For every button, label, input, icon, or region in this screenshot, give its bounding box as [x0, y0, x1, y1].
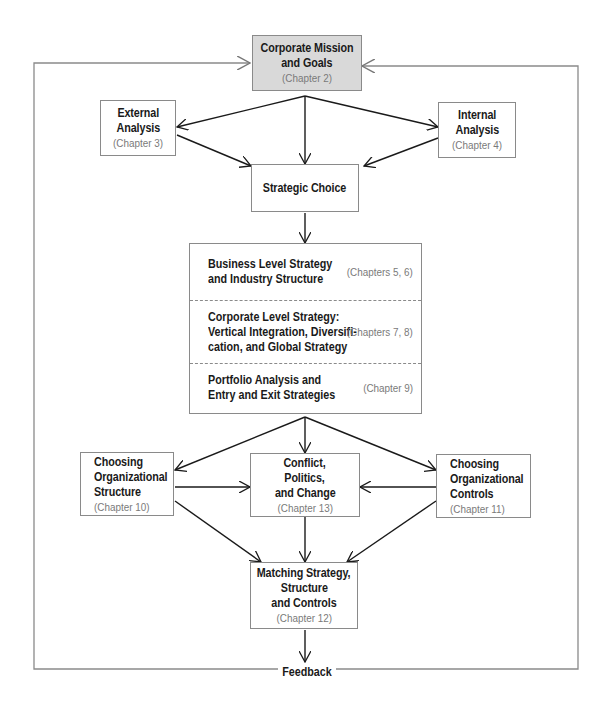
box-strategy-options: Business Level Strategy and Industry Str… — [189, 243, 422, 414]
conflict-chapter: (Chapter 13) — [277, 501, 333, 515]
controls-title-1: Choosing — [450, 457, 499, 472]
strategy-row-corporate: Corporate Level Strategy: Vertical Integ… — [190, 301, 421, 363]
strategy-row-business: Business Level Strategy and Industry Str… — [190, 244, 421, 300]
portfolio-strategy-title: Portfolio Analysis and Entry and Exit St… — [208, 373, 335, 403]
structure-title-1: Choosing — [94, 455, 143, 470]
controls-chapter: (Chapter 11) — [450, 502, 505, 516]
matching-title-1: Matching Strategy, — [257, 566, 351, 581]
controls-title-2: Organizational — [450, 472, 523, 487]
conflict-title-2: Politics, — [285, 471, 325, 486]
portfolio-chapter: (Chapter 9) — [363, 382, 413, 394]
box-organizational-controls: Choosing Organizational Controls (Chapte… — [436, 454, 531, 518]
box-organizational-structure: Choosing Organizational Structure (Chapt… — [80, 452, 174, 516]
feedback-label: Feedback — [282, 665, 332, 679]
corporate-chapter: (Chapters 7, 8) — [347, 326, 413, 338]
internal-chapter: (Chapter 4) — [452, 138, 502, 152]
external-title-2: Analysis — [116, 121, 160, 136]
external-chapter: (Chapter 3) — [113, 136, 163, 150]
corporate-title-2: Vertical Integration, Diversifi- — [208, 325, 357, 340]
business-strategy-title: Business Level Strategy and Industry Str… — [208, 257, 332, 287]
mission-chapter: (Chapter 2) — [282, 71, 332, 85]
structure-chapter: (Chapter 10) — [94, 500, 150, 514]
box-strategic-choice: Strategic Choice — [251, 164, 359, 212]
strategy-row-portfolio: Portfolio Analysis and Entry and Exit St… — [190, 364, 421, 412]
box-matching-strategy: Matching Strategy, Structure and Control… — [250, 562, 358, 629]
business-chapter: (Chapters 5, 6) — [347, 266, 413, 278]
business-title-1: Business Level Strategy — [208, 257, 332, 272]
internal-title-2: Analysis — [455, 123, 499, 138]
box-corporate-mission: Corporate Mission and Goals (Chapter 2) — [252, 35, 362, 91]
box-external-analysis: External Analysis (Chapter 3) — [100, 100, 176, 156]
matching-title-2: Structure — [280, 581, 327, 596]
corporate-title-1: Corporate Level Strategy: — [208, 310, 357, 325]
matching-title-3: and Controls — [271, 596, 336, 611]
box-conflict-politics-change: Conflict, Politics, and Change (Chapter … — [250, 453, 360, 517]
box-internal-analysis: Internal Analysis (Chapter 4) — [438, 102, 516, 158]
matching-chapter: (Chapter 12) — [276, 611, 332, 625]
mission-title-2: and Goals — [281, 56, 332, 71]
corporate-title-3: cation, and Global Strategy — [208, 340, 357, 355]
controls-title-3: Controls — [450, 487, 494, 502]
conflict-title-3: and Change — [275, 486, 336, 501]
conflict-title-1: Conflict, — [284, 456, 326, 471]
portfolio-title-1: Portfolio Analysis and — [208, 373, 335, 388]
external-title-1: External — [117, 106, 159, 121]
business-title-2: and Industry Structure — [208, 272, 332, 287]
portfolio-title-2: Entry and Exit Strategies — [208, 388, 335, 403]
internal-title-1: Internal — [458, 108, 496, 123]
choice-title: Strategic Choice — [263, 181, 346, 196]
structure-title-3: Structure — [94, 485, 141, 500]
corporate-strategy-title: Corporate Level Strategy: Vertical Integ… — [208, 310, 357, 355]
structure-title-2: Organizational — [94, 470, 167, 485]
mission-title-1: Corporate Mission — [261, 41, 354, 56]
